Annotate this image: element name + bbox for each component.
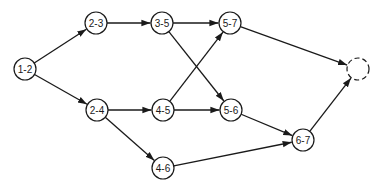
edge-5-7-to-end [240,27,347,65]
activity-network-diagram: 1-22-33-55-72-44-55-64-66-7 [0,0,377,184]
nodes-layer: 1-22-33-55-72-44-55-64-66-7 [14,12,369,179]
node-label: 4-6 [156,163,171,174]
node-label: 4-5 [156,105,171,116]
node-label: 2-3 [89,18,104,29]
node-label: 2-4 [90,105,105,116]
node-label: 3-5 [155,18,170,29]
node-2-3: 2-3 [85,12,107,34]
node-4-5: 4-5 [152,99,174,121]
edge-6-7-to-end [310,78,351,131]
node-4-6: 4-6 [152,157,174,179]
node-6-7: 6-7 [292,129,314,151]
node-3-5: 3-5 [151,12,173,34]
node-label: 5-6 [224,105,239,116]
edge-5-6-to-6-7 [241,114,292,135]
node-1-2: 1-2 [14,58,36,80]
node-label: 5-7 [223,18,238,29]
node-5-7: 5-7 [219,12,241,34]
node-5-6: 5-6 [220,99,242,121]
edge-2-4-to-4-6 [105,117,154,160]
node-label: 1-2 [18,64,33,75]
node-circle [347,58,369,80]
edge-4-6-to-6-7 [174,142,292,166]
edge-1-2-to-2-3 [34,29,86,63]
node-2-4: 2-4 [86,99,108,121]
node-label: 6-7 [296,135,311,146]
node-end-dashed [347,58,369,80]
edge-1-2-to-2-4 [35,74,87,104]
